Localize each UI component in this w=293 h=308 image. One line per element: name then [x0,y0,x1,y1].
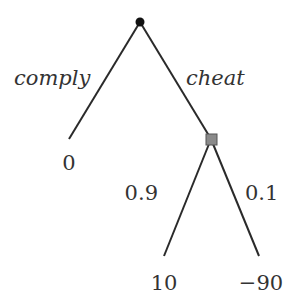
cheat-label: cheat [186,66,245,90]
payoff-10: 10 [151,271,178,295]
decision-node-icon [136,18,145,27]
payoff-minus-90: −90 [239,271,283,295]
prob-label-0.9: 0.9 [125,181,158,205]
chance-node-icon [206,134,217,145]
prob-0.9-edge [164,139,211,256]
comply-payoff: 0 [62,151,75,175]
game-tree-diagram: comply cheat 0 0.9 0.1 10 −90 [0,0,293,308]
comply-label: comply [14,66,91,90]
prob-label-0.1: 0.1 [245,181,278,205]
